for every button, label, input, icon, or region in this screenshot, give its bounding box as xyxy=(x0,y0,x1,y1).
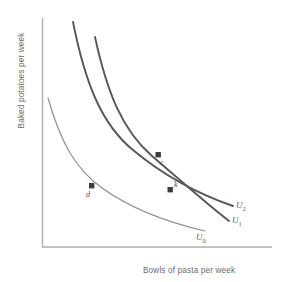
point-label-c: c xyxy=(160,158,164,167)
x-axis-label: Bowls of pasta per week xyxy=(143,266,235,275)
indifference-curve-figure: Baked potatoes per week Bowls of pasta p… xyxy=(0,0,285,282)
curve-label-u2: U2 xyxy=(236,200,246,212)
curve-label-u1: U1 xyxy=(232,215,242,227)
curve-label-u0: U0 xyxy=(196,232,206,244)
point-label-d: d xyxy=(86,190,90,199)
curve-label-u0-subscript: 0 xyxy=(203,237,206,244)
marker-point-k xyxy=(168,187,173,192)
curve-label-u1-subscript: 1 xyxy=(239,220,242,227)
point-label-k: k xyxy=(174,180,178,189)
y-axis-label: Baked potatoes per week xyxy=(17,21,26,141)
chart-plot-area xyxy=(0,0,285,282)
curve-label-u2-subscript: 2 xyxy=(243,205,246,212)
marker-point-c xyxy=(156,152,161,157)
curve-u0 xyxy=(48,98,205,231)
marker-point-d xyxy=(89,183,94,188)
curve-u1 xyxy=(95,37,229,221)
